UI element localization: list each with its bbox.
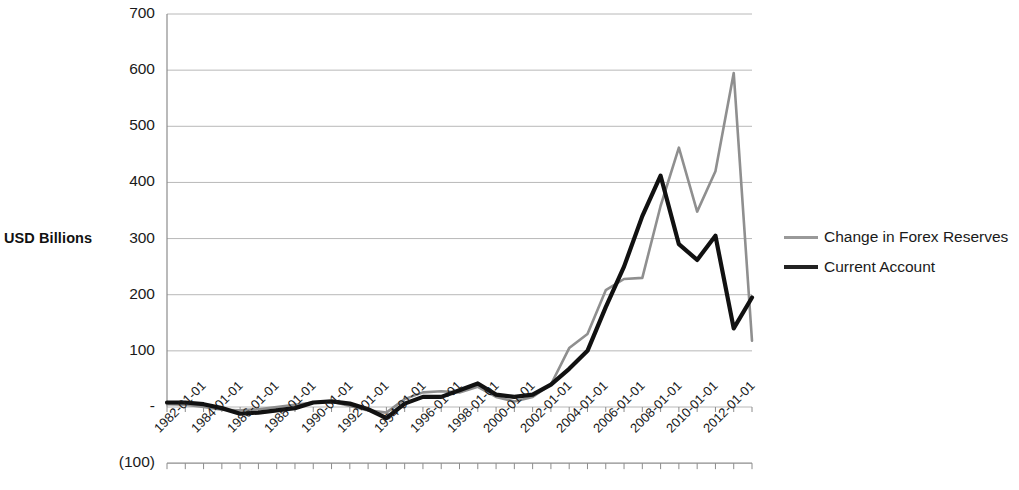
chart-legend: Change in Forex ReservesCurrent Account <box>784 222 1019 282</box>
legend-label: Current Account <box>824 258 935 276</box>
legend-label: Change in Forex Reserves <box>824 228 1008 246</box>
legend-item-forex[interactable]: Change in Forex Reserves <box>784 222 1019 252</box>
legend-item-ca[interactable]: Current Account <box>784 252 1019 282</box>
legend-swatch-ca-icon <box>784 265 818 269</box>
series-line-forex-reserves <box>167 73 752 413</box>
data-series-layer <box>167 73 752 418</box>
legend-swatch-forex-icon <box>784 236 818 239</box>
chart-container: USD Billions 700600500400300200100-(100)… <box>0 0 1019 490</box>
gridlines <box>167 14 752 407</box>
series-line-current-account <box>167 176 752 419</box>
